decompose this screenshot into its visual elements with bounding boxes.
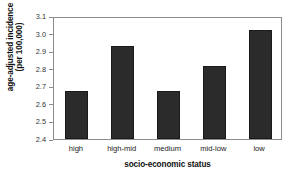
bar <box>203 66 226 139</box>
y-axis-tick-label: 3.1 <box>36 12 46 22</box>
y-axis-tick: 3.0 <box>0 30 53 40</box>
y-axis-tick-label: 2.8 <box>36 65 46 75</box>
x-axis-tick-labels: highhigh-midmediummid-lowlow <box>53 143 282 155</box>
y-axis-tick: 2.8 <box>0 65 53 75</box>
plot-area <box>53 17 282 140</box>
bars-layer <box>54 18 281 139</box>
bar <box>157 91 180 139</box>
y-axis-tick: 2.9 <box>0 47 53 57</box>
y-axis-tick-label: 2.9 <box>36 47 46 57</box>
bar <box>111 46 134 139</box>
y-axis-tick: 2.6 <box>0 100 53 110</box>
bar <box>65 91 88 139</box>
y-axis-tick-label: 3.0 <box>36 30 46 40</box>
y-axis-tick: 3.1 <box>0 12 53 22</box>
y-axis-tick: 2.5 <box>0 117 53 127</box>
y-axis-tick-label: 2.7 <box>36 82 46 92</box>
y-axis-tick: 2.7 <box>0 82 53 92</box>
y-axis-tick-label: 2.5 <box>36 117 46 127</box>
bar <box>249 30 272 139</box>
x-axis-title: socio-economic status <box>53 160 282 169</box>
bar-chart-figure: age-adjusted incidence (per 100,000) 3.1… <box>0 0 290 178</box>
y-axis-tick-label: 2.4 <box>36 135 46 145</box>
x-axis-tick-label: low <box>229 143 289 154</box>
y-axis-tick-label: 2.6 <box>36 100 46 110</box>
